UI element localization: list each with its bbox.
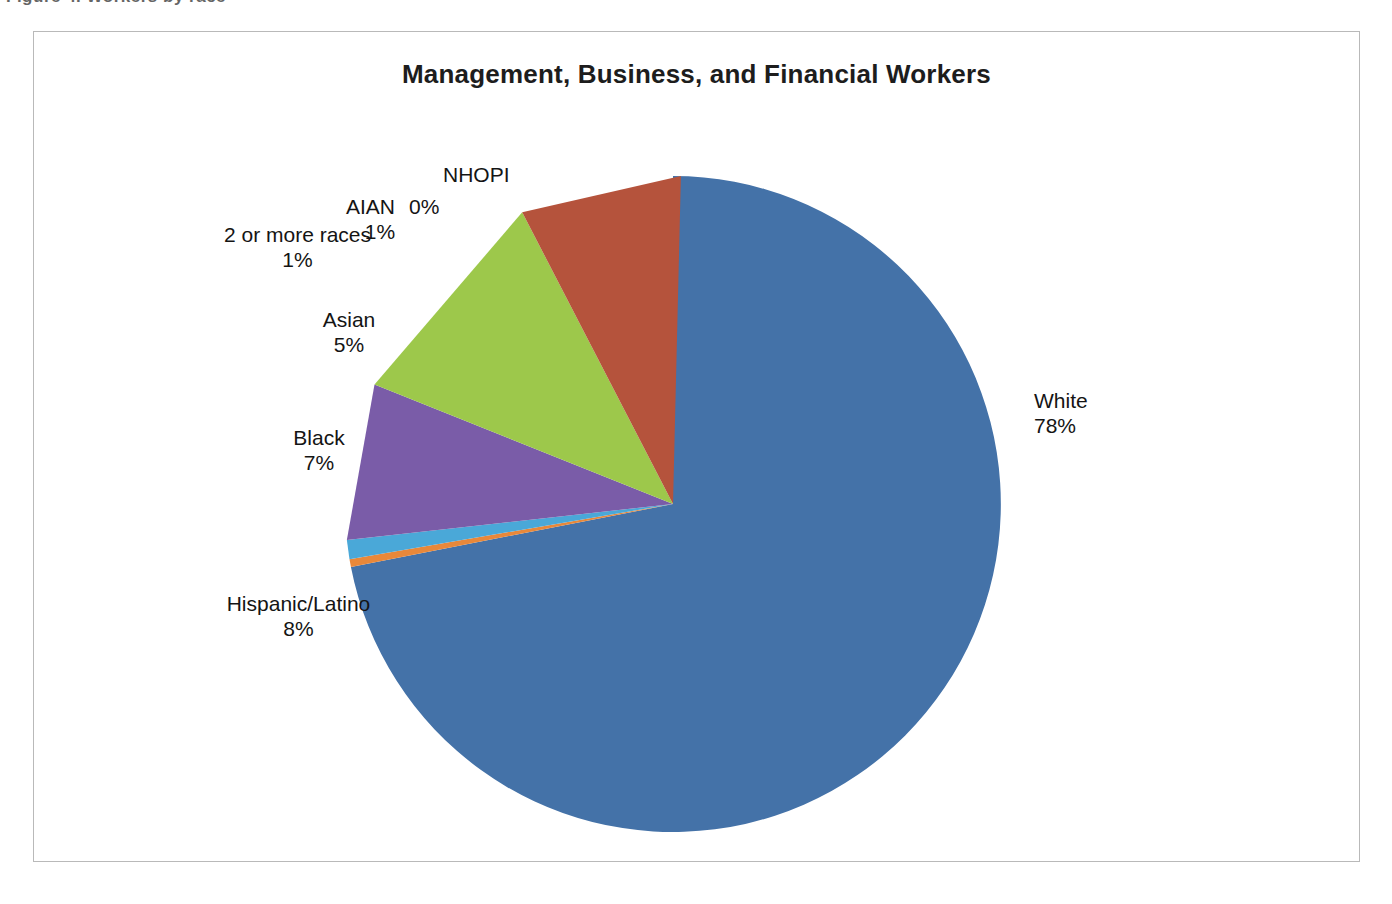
pie-chart xyxy=(345,176,1001,832)
clipped-page-header: Figure 4. Workers by race xyxy=(0,0,1392,9)
pie-label-black-name: Black xyxy=(262,426,376,451)
pie-label-white-value: 78% xyxy=(1034,414,1174,439)
pie-label-two-or-more-races-value: 1% xyxy=(194,248,401,273)
pie-label-aian-row: AIAN0% xyxy=(346,195,439,220)
pie-label-aian-name: AIAN xyxy=(346,195,395,218)
pie-label-white-name: White xyxy=(1034,389,1174,414)
pie-label-two-or-more-races-name: 2 or more races xyxy=(194,223,401,248)
pie-chart-svg xyxy=(345,176,1001,832)
pie-label-white: White 78% xyxy=(1034,389,1174,439)
clipped-header-text: Figure 4. Workers by race xyxy=(6,0,226,7)
pie-label-nhopi-name: NHOPI xyxy=(443,163,510,188)
pie-label-hispanic-latino: Hispanic/Latino 8% xyxy=(186,592,411,642)
chart-title: Management, Business, and Financial Work… xyxy=(34,59,1359,90)
pie-label-hispanic-latino-value: 8% xyxy=(186,617,411,642)
pie-label-asian-name: Asian xyxy=(292,308,406,333)
pie-label-nhopi: NHOPI xyxy=(443,163,510,188)
chart-frame: Management, Business, and Financial Work… xyxy=(33,31,1360,862)
pie-label-hispanic-latino-name: Hispanic/Latino xyxy=(186,592,411,617)
pie-label-black: Black 7% xyxy=(262,426,376,476)
pie-label-black-value: 7% xyxy=(262,451,376,476)
pie-label-two-or-more-races: 2 or more races 1% xyxy=(194,223,401,273)
pie-label-nhopi-value: 0% xyxy=(409,195,439,218)
pie-label-asian: Asian 5% xyxy=(292,308,406,358)
pie-label-asian-value: 5% xyxy=(292,333,406,358)
